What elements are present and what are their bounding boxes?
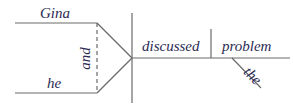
subject-word-gina: Gina [40, 6, 70, 21]
object-word: problem [222, 39, 271, 54]
subject-word-he: he [47, 76, 61, 91]
conjunction-word: and [78, 47, 93, 70]
verb-word: discussed [142, 39, 200, 54]
sentence-diagram: Gina he and discussed problem the [0, 0, 293, 108]
fork-top [97, 23, 132, 58]
fork-bottom [97, 58, 132, 93]
